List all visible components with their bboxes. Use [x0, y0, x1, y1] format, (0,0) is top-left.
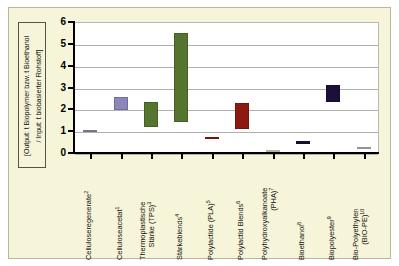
x-axis-tick-mark [212, 154, 214, 159]
x-axis-category-label: Polylactide (PLA)5 [206, 200, 215, 260]
gridline [75, 132, 378, 133]
category-label-line-2: (PHA)7 [269, 188, 278, 260]
x-axis-tick-mark [90, 154, 92, 159]
bar [296, 141, 310, 144]
category-footnote-marker: 10 [358, 209, 364, 215]
bar [83, 130, 97, 132]
bar [114, 97, 128, 110]
x-axis-tick-mark [151, 154, 153, 159]
x-axis-tick-mark [364, 154, 366, 159]
y-axis-tick-mark [68, 65, 74, 67]
bar [357, 147, 371, 149]
y-axis-tick-label: 0 [44, 148, 66, 158]
x-axis-category-label: Polylactid Blends6 [236, 201, 245, 260]
category-footnote-marker: 5 [204, 200, 210, 203]
x-axis-category-labels: Celluloseregenerate2Celluloseacetat1Ther… [0, 160, 399, 260]
y-axis-tick-mark [68, 43, 74, 45]
x-axis-tick-mark [273, 154, 275, 159]
x-axis-category-label: Celluloseacetat1 [115, 206, 124, 260]
category-footnote-marker: 4 [174, 214, 180, 217]
y-axis-tick-label: 2 [44, 104, 66, 114]
y-axis-tick-label: 6 [44, 17, 66, 27]
x-axis-category-label: Bioethanol8 [297, 222, 306, 260]
category-label-line-1: Thermoplastische [138, 202, 147, 260]
category-label-line-1: Polylactid Blends6 [236, 201, 245, 260]
y-axis-tick-label: 1 [44, 126, 66, 136]
bar [326, 85, 340, 101]
x-axis-tick-mark [181, 154, 183, 159]
x-axis-category-label: Celluloseregenerate2 [84, 191, 93, 260]
category-label-line-1: Celluloseacetat1 [115, 206, 124, 260]
bar [205, 137, 219, 139]
x-axis-category-label: Stärkeblends4 [175, 214, 184, 260]
category-label-line-2: Stärke (TPS)3 [147, 202, 156, 260]
x-axis-category-label: ThermoplastischeStärke (TPS)3 [138, 202, 156, 260]
category-label-line-1: Polylactide (PLA)5 [206, 200, 215, 260]
category-label-line-1: Celluloseregenerate2 [84, 191, 93, 260]
bar [174, 33, 188, 123]
category-label-line-1: Bioethanol8 [297, 222, 306, 260]
y-axis-tick-mark [68, 21, 74, 23]
y-axis-tick-mark [68, 87, 74, 89]
category-footnote-marker: 2 [83, 191, 89, 194]
chart-figure: [Output: t Biopolymer bzw. t Bioethanol … [0, 0, 399, 266]
category-footnote-marker: 7 [267, 188, 273, 191]
plot-area [75, 22, 379, 153]
bar [144, 102, 158, 127]
category-footnote-marker: 3 [146, 202, 152, 205]
gridline [75, 110, 378, 111]
y-axis-title-line-1: [Output: t Biopolymer bzw. t Bioethanol [21, 36, 33, 156]
category-label-line-1: Polyhydroxyalkanoate [260, 188, 269, 260]
x-axis-category-label: Bio-Polyethylen(BIO-PE)10 [351, 209, 369, 260]
y-axis-tick-mark [68, 108, 74, 110]
x-axis-tick-mark [303, 154, 305, 159]
category-label-line-1: Stärkeblends4 [175, 214, 184, 260]
x-axis-tick-mark [121, 154, 123, 159]
category-label-line-2: (BIO-PE)10 [360, 209, 369, 260]
bar [235, 103, 249, 129]
category-label-line-1: Bio-Polyethylen [351, 209, 360, 260]
y-axis-tick-mark [68, 152, 74, 154]
y-axis-tick-label: 4 [44, 61, 66, 71]
x-axis-category-label: Biopolyester9 [327, 216, 336, 260]
x-axis-category-label: Polyhydroxyalkanoate(PHA)7 [260, 188, 278, 260]
gridline [75, 67, 378, 68]
category-footnote-marker: 8 [296, 222, 302, 225]
category-footnote-marker: 9 [326, 216, 332, 219]
category-footnote-marker: 6 [235, 201, 241, 204]
gridline [75, 45, 378, 46]
y-axis-tick-label: 3 [44, 83, 66, 93]
x-axis-tick-mark [242, 154, 244, 159]
category-label-line-1: Biopolyester9 [327, 216, 336, 260]
category-footnote-marker: 1 [113, 206, 119, 209]
y-axis-tick-label: 5 [44, 39, 66, 49]
y-axis-tick-mark [68, 130, 74, 132]
x-axis-tick-mark [333, 154, 335, 159]
